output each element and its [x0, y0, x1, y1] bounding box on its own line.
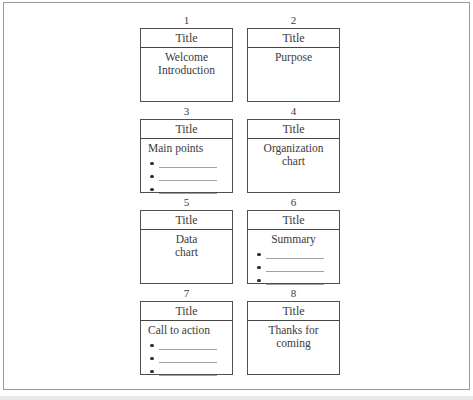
- slide-body: Thanks for coming: [248, 321, 339, 350]
- slide-number: 8: [247, 286, 340, 301]
- slide-box: Title Summary: [247, 210, 340, 284]
- body-line: chart: [248, 155, 339, 168]
- slide-cell-8: 8 Title Thanks for coming: [247, 286, 340, 375]
- bullet-item: [257, 260, 339, 272]
- bullet-item: [257, 247, 339, 259]
- slide-number: 1: [140, 13, 233, 28]
- slide-number: 7: [140, 286, 233, 301]
- body-line: chart: [141, 246, 232, 259]
- figure-frame: 1 Title Welcome Introduction 2 Title Pur…: [3, 2, 470, 390]
- slide-body: Main points: [141, 139, 232, 194]
- body-line: Organization: [248, 142, 339, 155]
- bullet-icon: [150, 175, 154, 179]
- body-line: Purpose: [248, 51, 339, 64]
- slide-title-bar: Title: [141, 302, 232, 321]
- slide-box: Title Organization chart: [247, 119, 340, 193]
- slide-title-bar: Title: [248, 211, 339, 230]
- body-line: Main points: [141, 142, 232, 155]
- slide-cell-5: 5 Title Data chart: [140, 195, 233, 284]
- bullet-icon: [150, 188, 154, 192]
- slide-body: Purpose: [248, 48, 339, 64]
- bullet-icon: [257, 279, 261, 283]
- blank-line: [159, 170, 217, 181]
- slide-body: Summary: [248, 230, 339, 285]
- slide-box: Title Call to action: [140, 301, 233, 375]
- bullet-item: [150, 351, 232, 363]
- slide-body: Welcome Introduction: [141, 48, 232, 77]
- blank-line: [159, 365, 217, 376]
- slide-box: Title Thanks for coming: [247, 301, 340, 375]
- slide-title-bar: Title: [248, 29, 339, 48]
- bullet-item: [150, 169, 232, 181]
- bullet-icon: [150, 357, 154, 361]
- slide-body: Call to action: [141, 321, 232, 376]
- bullet-icon: [150, 162, 154, 166]
- blank-line: [266, 261, 324, 272]
- page-edge-shadow: [0, 396, 473, 400]
- bullet-item: [257, 273, 339, 285]
- slide-body: Data chart: [141, 230, 232, 259]
- slide-cell-3: 3 Title Main points: [140, 104, 233, 193]
- slide-number: 5: [140, 195, 233, 210]
- bullet-icon: [257, 253, 261, 257]
- slide-cell-7: 7 Title Call to action: [140, 286, 233, 375]
- body-line: Summary: [248, 233, 339, 246]
- slide-cell-4: 4 Title Organization chart: [247, 104, 340, 193]
- slide-title-bar: Title: [141, 29, 232, 48]
- body-line: Data: [141, 233, 232, 246]
- slide-number: 3: [140, 104, 233, 119]
- slide-box: Title Welcome Introduction: [140, 28, 233, 102]
- slide-title-bar: Title: [248, 302, 339, 321]
- body-line: Introduction: [141, 64, 232, 77]
- slide-number: 4: [247, 104, 340, 119]
- bullet-icon: [150, 344, 154, 348]
- blank-line: [159, 183, 217, 194]
- blank-line: [159, 339, 217, 350]
- slide-cell-1: 1 Title Welcome Introduction: [140, 13, 233, 102]
- blank-line: [266, 248, 324, 259]
- body-line: Welcome: [141, 51, 232, 64]
- body-line: Call to action: [141, 324, 232, 337]
- slide-title-bar: Title: [141, 211, 232, 230]
- slide-cell-2: 2 Title Purpose: [247, 13, 340, 102]
- blank-line: [159, 157, 217, 168]
- slide-number: 6: [247, 195, 340, 210]
- bullet-icon: [150, 370, 154, 374]
- slide-box: Title Data chart: [140, 210, 233, 284]
- slide-cell-6: 6 Title Summary: [247, 195, 340, 284]
- bullet-item: [150, 364, 232, 376]
- body-line: Thanks for: [248, 324, 339, 337]
- slide-body: Organization chart: [248, 139, 339, 168]
- bullet-icon: [257, 266, 261, 270]
- bullet-item: [150, 156, 232, 168]
- bullet-item: [150, 182, 232, 194]
- slide-number: 2: [247, 13, 340, 28]
- slide-title-bar: Title: [248, 120, 339, 139]
- blank-line: [266, 274, 324, 285]
- slides-grid: 1 Title Welcome Introduction 2 Title Pur…: [140, 13, 340, 375]
- blank-line: [159, 352, 217, 363]
- bullet-item: [150, 338, 232, 350]
- slide-box: Title Purpose: [247, 28, 340, 102]
- body-line: coming: [248, 337, 339, 350]
- slide-box: Title Main points: [140, 119, 233, 193]
- slide-title-bar: Title: [141, 120, 232, 139]
